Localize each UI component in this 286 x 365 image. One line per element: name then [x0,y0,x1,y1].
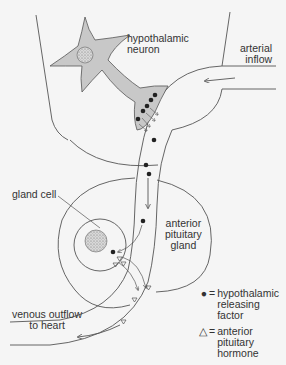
legend-item-releasing-factor: ● = hypothalamic releasing factor [191,288,279,321]
gland-cell-pointer [58,196,100,228]
label-line: to heart [12,320,82,331]
label-anterior-pituitary-gland: anterior pituitary gland [165,218,202,251]
gland-cell-nucleus [85,230,107,252]
label-arterial-inflow: arterial inflow [240,43,272,65]
legend-equals: = [209,326,217,359]
pituitary-hormone-triangles [113,257,151,324]
gland-cell [58,196,126,271]
triangle-icon: △ [191,326,209,359]
label-gland-cell: gland cell [12,189,56,200]
legend-equals: = [209,288,217,321]
label-hypothalamic-neuron: hypothalamic neuron [127,33,189,55]
filled-circle-icon: ● [191,288,209,321]
label-venous-outflow: venous outflow to heart [12,309,82,331]
label-line: neuron [127,44,189,55]
label-line: inflow [240,54,272,65]
neuron-nucleus [77,47,93,63]
legend-line: factor [217,310,279,321]
legend-item-pituitary-hormone: △ = anterior pituitary hormone [191,326,259,359]
label-line: gland [165,240,202,251]
legend-line: hormone [217,348,258,359]
secretion-arrows [118,225,146,290]
